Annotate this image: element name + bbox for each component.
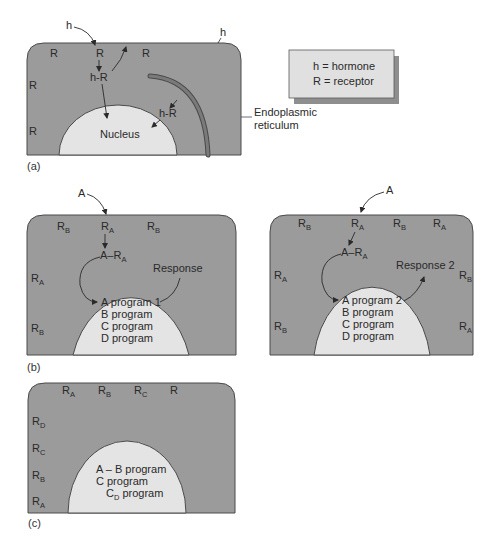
receptor-label: R: [170, 384, 178, 396]
program-item: C program: [96, 475, 148, 487]
legend: h = hormone R = receptor: [289, 50, 399, 104]
panel-tag-b: (b): [27, 361, 40, 373]
panel-b-left: A RB RA RB RA RB A–RA Response A program…: [27, 187, 236, 373]
program-item: D program: [342, 330, 394, 342]
response-label: Response 2: [396, 259, 455, 271]
program-item: A – B program: [96, 463, 166, 475]
response-label: Response: [153, 262, 203, 274]
er-label: Endoplasmic: [254, 106, 317, 118]
legend-receptor: R = receptor: [313, 75, 374, 87]
hormone-label: h: [220, 26, 226, 38]
hormone-receptor-complex: h-R: [90, 71, 108, 83]
hormone-entry-arrow: [74, 27, 95, 45]
ligand-label: A: [386, 184, 394, 196]
panel-a: R R R R R h h h-R h-R Nucleus Endoplasmi…: [27, 19, 317, 172]
program-item: C program: [342, 318, 394, 330]
receptor-label: R: [142, 47, 150, 59]
receptor-label: R: [29, 79, 37, 91]
program-item: C program: [101, 320, 153, 332]
receptor-label: R: [96, 47, 104, 59]
program-item: D program: [101, 332, 153, 344]
program-item: A program 1: [101, 296, 161, 308]
panel-b-right: A RB RA RB RA RA RB RB RA A–RA Response …: [270, 184, 473, 355]
er-label: reticulum: [254, 119, 299, 131]
hormone-receptor-complex: h-R: [159, 107, 177, 119]
hormone-label: h: [66, 19, 72, 31]
program-item: B program: [101, 308, 152, 320]
receptor-label: R: [29, 125, 37, 137]
panel-tag-c: (c): [28, 517, 41, 529]
legend-hormone: h = hormone: [313, 60, 375, 72]
ligand-label: A: [78, 187, 86, 199]
receptor-label: R: [50, 47, 58, 59]
nucleus-label: Nucleus: [100, 128, 140, 140]
program-item: A program 2: [342, 294, 402, 306]
panel-c: RA RB RC R RD RC RB RA A – B program C p…: [28, 383, 235, 529]
hormone-receptor-diagram: R R R R R h h h-R h-R Nucleus Endoplasmi…: [0, 0, 487, 546]
panel-tag-a: (a): [27, 160, 40, 172]
program-item: B program: [342, 306, 393, 318]
